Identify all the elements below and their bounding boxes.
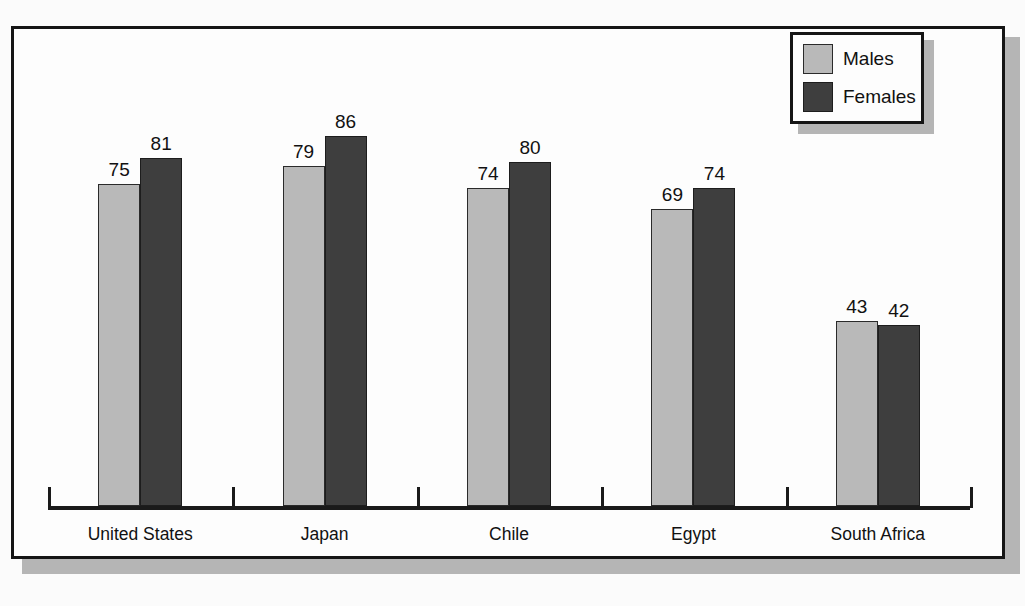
- x-axis-tick: [970, 487, 973, 508]
- bar-japan-females: [325, 136, 367, 506]
- bar-japan-males: [283, 166, 325, 506]
- legend-entry-females: Females: [803, 81, 916, 113]
- bar-united-states-females: [140, 158, 182, 506]
- bar-egypt-males: [651, 209, 693, 506]
- bar-value-label: 86: [315, 112, 377, 131]
- bar-south-africa-females: [878, 325, 920, 506]
- page-background: 75817986748069744342 United StatesJapanC…: [0, 0, 1025, 606]
- bar-egypt-females: [693, 188, 735, 506]
- legend-entry-males: Males: [803, 43, 894, 75]
- males-swatch-icon: [803, 44, 833, 74]
- chart-legend: Males Females: [790, 32, 924, 124]
- x-axis-tick: [232, 487, 235, 508]
- category-label-united-states: United States: [48, 525, 232, 544]
- bar-united-states-males: [98, 184, 140, 507]
- legend-label-females: Females: [843, 86, 916, 108]
- bar-value-label: 74: [683, 164, 745, 183]
- x-axis-tick: [601, 487, 604, 508]
- bar-value-label: 80: [499, 138, 561, 157]
- females-swatch-icon: [803, 82, 833, 112]
- bar-south-africa-males: [836, 321, 878, 506]
- category-label-south-africa: South Africa: [786, 525, 970, 544]
- category-label-chile: Chile: [417, 525, 601, 544]
- x-axis-tick: [417, 487, 420, 508]
- x-axis-line: [48, 506, 970, 510]
- x-axis-tick: [786, 487, 789, 508]
- bar-chile-males: [467, 188, 509, 506]
- bar-value-label: 81: [130, 134, 192, 153]
- category-label-japan: Japan: [232, 525, 416, 544]
- bar-value-label: 42: [868, 301, 930, 320]
- bar-chile-females: [509, 162, 551, 506]
- category-label-egypt: Egypt: [601, 525, 785, 544]
- legend-label-males: Males: [843, 48, 894, 70]
- x-axis-tick: [48, 487, 51, 508]
